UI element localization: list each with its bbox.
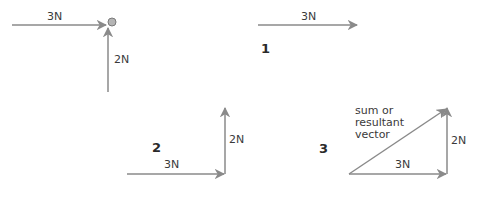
step-2-horizontal-label: 3N <box>164 159 179 171</box>
step-3-horizontal-label: 3N <box>395 159 410 171</box>
resultant-label-line-3: vector <box>355 129 435 141</box>
step-3-number: 3 <box>319 142 328 156</box>
resultant-vector-label: sum or resultant vector <box>355 105 435 141</box>
step-1-number: 1 <box>261 42 270 56</box>
vertical-force-label: 2N <box>114 54 129 66</box>
forces-on-object-diagram <box>12 18 116 92</box>
object-circle-icon <box>108 18 116 26</box>
horizontal-force-label: 3N <box>47 11 62 23</box>
step-2-number: 2 <box>152 141 161 155</box>
step-3-vertical-label: 2N <box>451 135 466 147</box>
step-2-vertical-label: 2N <box>229 134 244 146</box>
step-1-horizontal-label: 3N <box>301 11 316 23</box>
